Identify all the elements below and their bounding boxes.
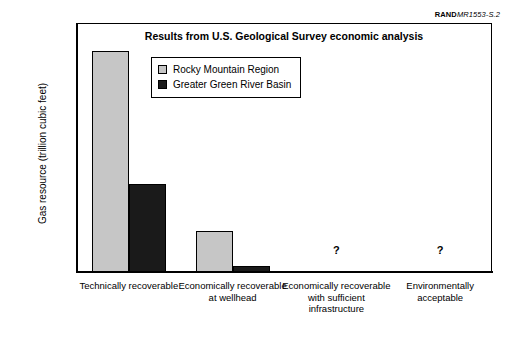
y-axis-title: Gas resource (trillion cubic feet) [37, 38, 48, 270]
x-category-label: Technically recoverable [74, 280, 184, 292]
unknown-value-marker: ? [437, 244, 444, 256]
bar-rocky-mountain-region [196, 231, 233, 272]
bar-greater-green-river-basin [129, 184, 166, 272]
x-category-label: Economically recoverable at wellhead [178, 280, 288, 303]
x-category-label: Economically recoverable with sufficient… [281, 280, 391, 315]
legend-item-rocky-mountain-region: Rocky Mountain Region [158, 62, 291, 77]
y-axis-line [76, 23, 78, 273]
bar-rocky-mountain-region [92, 51, 129, 272]
legend-label-rocky-mountain-region: Rocky Mountain Region [173, 64, 279, 75]
chart-title: Results from U.S. Geological Survey econ… [76, 30, 492, 42]
rand-document-id: MR1553-S.2 [457, 10, 500, 19]
rand-source-credit: RANDMR1553-S.2 [435, 10, 500, 19]
chart-figure: RANDMR1553-S.2 050100150200250300350 Gas… [0, 0, 509, 348]
rand-brand-label: RAND [435, 10, 457, 19]
legend-label-greater-green-river-basin: Greater Green River Basin [173, 79, 291, 90]
bar-greater-green-river-basin [233, 266, 270, 272]
legend-swatch-rocky-mountain-region [158, 65, 167, 74]
legend-swatch-greater-green-river-basin [158, 80, 167, 89]
x-category-label: Environmentally acceptable [385, 280, 495, 303]
unknown-value-marker: ? [333, 244, 340, 256]
legend-item-greater-green-river-basin: Greater Green River Basin [158, 77, 291, 92]
chart-legend: Rocky Mountain Region Greater Green Rive… [151, 57, 301, 98]
